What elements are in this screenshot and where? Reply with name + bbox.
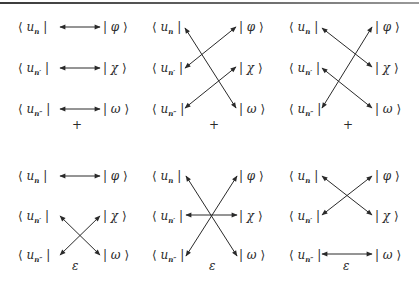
ket-ω: | ω ⟩ [103, 248, 129, 262]
arrow-n2-chi [185, 67, 236, 108]
ket-φ: | φ ⟩ [239, 20, 264, 34]
ket-φ: | φ ⟩ [375, 20, 400, 34]
arrow-n-chi [322, 28, 372, 67]
ket-ω: | ω ⟩ [375, 248, 401, 262]
ket-ω: | ω ⟩ [239, 248, 265, 262]
bra-n: ⟨ un | [289, 20, 318, 39]
ket-χ: | χ ⟩ [103, 209, 127, 223]
bra-n: ⟨ un | [289, 169, 318, 188]
plus-sign: + [209, 118, 219, 132]
ket-φ: | φ ⟩ [375, 169, 400, 183]
bra-n1: ⟨ un′ | [152, 209, 183, 228]
ket-ω: | ω ⟩ [239, 102, 265, 116]
epsilon-symbol: ε [209, 259, 215, 273]
bra-n2: ⟨ un″ | [18, 248, 50, 267]
ket-φ: | φ ⟩ [103, 169, 128, 183]
epsilon-symbol: ε [72, 259, 78, 273]
bra-n1: ⟨ un′ | [152, 61, 183, 80]
bra-n2: ⟨ un″ | [289, 248, 321, 267]
arrow-n1-phi [185, 27, 236, 68]
ket-χ: | χ ⟩ [239, 61, 263, 75]
ket-χ: | χ ⟩ [239, 209, 263, 223]
epsilon-symbol: ε [343, 259, 349, 273]
bra-n2: ⟨ un″ | [289, 102, 321, 121]
ket-ω: | ω ⟩ [103, 102, 129, 116]
bra-n2: ⟨ un″ | [152, 102, 184, 121]
ket-φ: | φ ⟩ [239, 169, 264, 183]
bra-n: ⟨ un | [18, 20, 47, 39]
bra-n1: ⟨ un′ | [18, 61, 49, 80]
bra-n1: ⟨ un′ | [289, 209, 320, 228]
arrow-n1-omega [322, 68, 372, 108]
arrow-n2-phi [322, 27, 372, 108]
ket-ω: | ω ⟩ [375, 102, 401, 116]
bra-n: ⟨ un | [152, 20, 181, 39]
ket-χ: | χ ⟩ [375, 61, 399, 75]
bra-n1: ⟨ un′ | [289, 61, 320, 80]
bra-n1: ⟨ un′ | [18, 209, 49, 228]
ket-φ: | φ ⟩ [103, 20, 128, 34]
plus-sign: + [343, 118, 353, 132]
bra-n2: ⟨ un″ | [152, 248, 184, 267]
bra-n: ⟨ un | [18, 169, 47, 188]
bra-n: ⟨ un | [152, 169, 181, 188]
arrow-n-omega [185, 28, 236, 108]
ket-χ: | χ ⟩ [375, 209, 399, 223]
ket-χ: | χ ⟩ [103, 61, 127, 75]
arrow-diagram [0, 0, 419, 281]
plus-sign: + [72, 118, 82, 132]
bra-n2: ⟨ un″ | [18, 102, 50, 121]
